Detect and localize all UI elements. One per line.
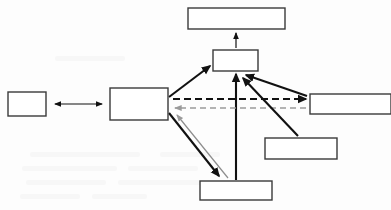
node-bottom[interactable]	[200, 181, 272, 200]
edge-bottom-to-center-left	[177, 115, 228, 178]
node-center-left[interactable]	[110, 88, 168, 120]
node-far-left[interactable]	[8, 92, 46, 116]
edge-lower-right-to-center	[243, 78, 298, 136]
node-top[interactable]	[188, 8, 285, 29]
edge-right-to-center	[246, 75, 307, 96]
diagram-graphic: center-left : horizontal double-headed t…	[0, 0, 391, 210]
edge-center-left-to-center	[169, 66, 210, 97]
diagram-canvas: center-left : horizontal double-headed t…	[0, 0, 391, 210]
edge-center-left-to-bottom	[169, 113, 219, 176]
node-lower-right[interactable]	[265, 138, 337, 159]
node-right[interactable]	[310, 94, 391, 114]
node-center[interactable]	[213, 50, 258, 71]
